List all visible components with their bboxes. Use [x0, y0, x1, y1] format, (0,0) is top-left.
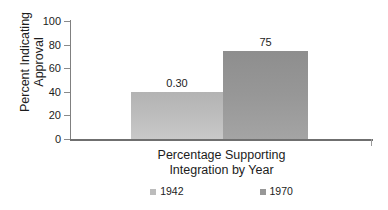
legend-swatch-icon-1970	[260, 189, 266, 195]
x-axis-title-line-2: Integration by Year	[70, 163, 373, 178]
bar-1942[interactable]	[131, 92, 223, 139]
bar-value-1970: 75	[223, 37, 308, 48]
legend-item-1970[interactable]: 1970	[260, 186, 293, 197]
y-tick-label-100: 100	[21, 16, 61, 27]
x-axis-title: Percentage Supporting Integration by Yea…	[70, 148, 373, 178]
x-axis-line	[70, 139, 373, 141]
chart-legend: 1942 1970	[70, 186, 373, 197]
bar-chart: Percent Indicating Approval 100 80 60 40…	[0, 0, 388, 210]
y-tick-label-40: 40	[21, 87, 61, 98]
x-axis-end-tick	[371, 139, 372, 146]
y-tick-label-60: 60	[21, 63, 61, 74]
y-tick-label-20: 20	[21, 110, 61, 121]
y-tick-label-80: 80	[21, 40, 61, 51]
legend-label-1942: 1942	[160, 186, 183, 197]
y-tick-label-0: 0	[21, 134, 61, 145]
legend-swatch-icon-1942	[150, 189, 156, 195]
bar-1970[interactable]	[223, 51, 308, 140]
x-axis-title-line-1: Percentage Supporting	[70, 148, 373, 163]
legend-item-1942[interactable]: 1942	[150, 186, 183, 197]
bar-value-1942: 0.30	[131, 78, 223, 89]
plot-area: 0.30 75	[70, 21, 372, 139]
legend-label-1970: 1970	[270, 186, 293, 197]
